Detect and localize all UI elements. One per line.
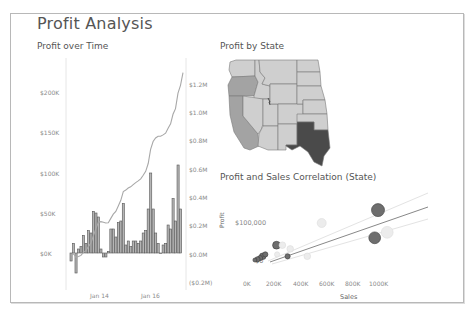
state-point[interactable] (372, 204, 385, 217)
trend-line (270, 207, 428, 262)
correlation-scatter[interactable] (0, 0, 470, 312)
state-point[interactable] (253, 258, 257, 262)
state-point[interactable] (263, 252, 268, 257)
state-point[interactable] (279, 242, 286, 249)
state-point[interactable] (304, 253, 311, 260)
state-point[interactable] (381, 226, 393, 238)
state-point[interactable] (317, 219, 326, 228)
scatter-points (253, 204, 393, 262)
state-point[interactable] (287, 246, 294, 253)
state-point[interactable] (275, 252, 280, 257)
state-point[interactable] (285, 254, 290, 259)
state-point[interactable] (369, 232, 381, 244)
